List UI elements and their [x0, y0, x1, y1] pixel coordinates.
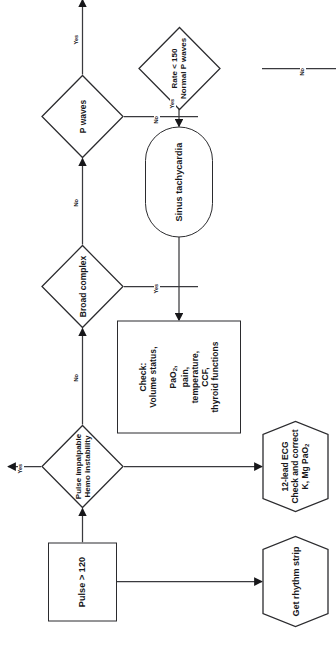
rate-line-2: Normal P waves — [179, 37, 188, 98]
node-broad-complex[interactable]: Broad complex — [41, 244, 124, 328]
node-rate-normal-p[interactable]: Rate < 150 Normal P waves — [138, 26, 221, 110]
check-line-4: pain, — [180, 366, 190, 386]
edge-label-impalpable-yes: Yes — [18, 462, 24, 474]
node-check-box[interactable]: Check: Volume status, PaO2, pain, temper… — [117, 320, 241, 433]
node-broad-complex-label: Broad complex — [41, 244, 124, 328]
edge-label-impalpable-no: No — [74, 373, 80, 382]
check-line-3: PaO2, — [158, 365, 179, 388]
node-rate-normal-p-label: Rate < 150 Normal P waves — [138, 26, 221, 110]
check-line-2: Volume status, — [148, 346, 158, 407]
node-pulse-impalpable[interactable]: Pulse impalpable Hemo instability — [41, 424, 124, 508]
ecg-line-2: Check and correct — [290, 429, 300, 503]
edge-label-broad-no: No — [74, 198, 80, 207]
flowchart-canvas: Pulse > 120 Get rhythm strip 12-lead ECG… — [0, 0, 336, 671]
node-sinus-tachycardia[interactable]: Sinus tachycardia — [145, 126, 213, 237]
edge-label-broad-yes: Yes — [154, 282, 160, 294]
node-check-box-label: Check: Volume status, PaO2, pain, temper… — [138, 341, 219, 412]
check-line-7: thyroid functions — [210, 341, 220, 412]
node-pulse-start-label: Pulse > 120 — [77, 556, 88, 606]
ecg-line-3: K, Mg PaO2 — [300, 443, 310, 489]
check-line-5: temperature, — [190, 350, 200, 403]
check-line-6: CCF, — [200, 367, 210, 386]
node-pulse-impalpable-label: Pulse impalpable Hemo instability — [41, 424, 124, 508]
ecg-line-1: 12-lead ECG — [280, 441, 290, 491]
node-get-rhythm-strip-label: Get rhythm strip — [262, 535, 329, 627]
node-p-waves-label: P waves — [41, 74, 124, 158]
node-pulse-start[interactable]: Pulse > 120 — [48, 542, 117, 621]
edge-label-rate-yes: Yes — [170, 97, 176, 109]
edge-label-rate-no: No — [300, 67, 306, 76]
node-ecg-correct[interactable]: 12-lead ECG Check and correct K, Mg PaO2 — [262, 420, 329, 512]
check-line-1: Check: — [138, 362, 148, 391]
rate-line-1: Rate < 150 — [170, 48, 179, 88]
node-get-rhythm-strip[interactable]: Get rhythm strip — [262, 535, 329, 627]
impalpable-line-1: Pulse impalpable — [74, 433, 83, 498]
node-p-waves[interactable]: P waves — [41, 74, 124, 158]
node-sinus-tachycardia-label: Sinus tachycardia — [174, 142, 185, 221]
node-ecg-correct-label: 12-lead ECG Check and correct K, Mg PaO2 — [262, 420, 329, 512]
edge-label-pwaves-no: No — [154, 115, 160, 124]
edge-label-pwaves-yes: Yes — [74, 33, 80, 45]
impalpable-line-2: Hemo instability — [83, 435, 92, 497]
